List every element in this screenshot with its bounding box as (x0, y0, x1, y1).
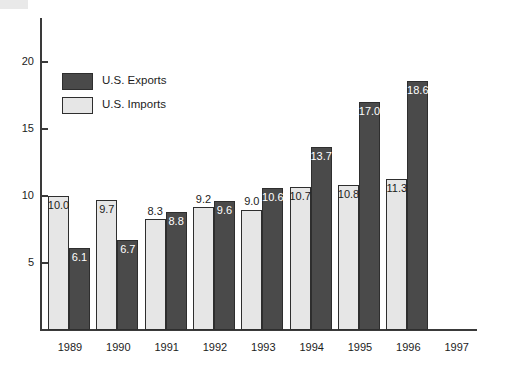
bar-value-label: 9.6 (210, 205, 239, 216)
bar-value-label: 8.8 (162, 216, 191, 227)
x-axis-label-1992: 1992 (196, 342, 234, 353)
bar-imports (96, 200, 117, 330)
bar-exports (359, 102, 380, 330)
scan-artifact (0, 0, 28, 9)
legend: U.S. Exports U.S. Imports (62, 72, 167, 120)
x-axis-label-1996: 1996 (389, 342, 427, 353)
bar-value-label: 6.1 (65, 252, 94, 263)
plot-area: 10.06.19.76.78.38.89.29.69.010.610.713.7… (42, 18, 477, 330)
bar-value-label: 17.0 (355, 106, 384, 117)
bar-imports (338, 185, 359, 330)
legend-item-exports: U.S. Exports (62, 72, 167, 90)
x-axis-label-1995: 1995 (341, 342, 379, 353)
y-axis-tick-label: 10 (0, 190, 34, 201)
bar-value-label: 13.7 (307, 151, 336, 162)
x-axis-label-1991: 1991 (148, 342, 186, 353)
bar-exports (407, 81, 428, 330)
x-axis-label-1994: 1994 (293, 342, 331, 353)
legend-item-imports: U.S. Imports (62, 96, 167, 114)
bar-value-label: 9.7 (92, 204, 121, 215)
y-axis-tick-label: 20 (0, 56, 34, 67)
bar-exports (214, 201, 235, 330)
legend-swatch-imports-icon (62, 97, 93, 114)
x-axis-label-1990: 1990 (99, 342, 137, 353)
bar-value-label: 18.6 (403, 85, 432, 96)
bar-value-label: 10.6 (258, 192, 287, 203)
x-axis-label-1993: 1993 (244, 342, 282, 353)
bar-imports (193, 207, 214, 330)
bar-imports (241, 210, 262, 331)
legend-label-imports: U.S. Imports (102, 99, 166, 111)
bar-value-label: 6.7 (113, 244, 142, 255)
bar-imports (386, 179, 407, 330)
bar-exports (262, 188, 283, 330)
bar-exports (311, 147, 332, 330)
bar-chart: 5101520 10.06.19.76.78.38.89.29.69.010.6… (0, 0, 508, 368)
y-axis-tick-label: 5 (0, 257, 34, 268)
x-axis-label-1989: 1989 (51, 342, 89, 353)
legend-label-exports: U.S. Exports (102, 75, 167, 87)
x-axis-label-1997: 1997 (438, 342, 476, 353)
bar-exports (166, 212, 187, 330)
bar-imports (145, 219, 166, 330)
bar-value-label: 10.0 (44, 200, 73, 211)
legend-swatch-exports-icon (62, 73, 93, 90)
bar-imports (290, 187, 311, 330)
y-axis-tick-label: 15 (0, 123, 34, 134)
